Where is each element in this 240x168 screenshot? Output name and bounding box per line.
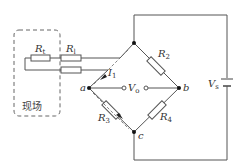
top-wire (134, 15, 227, 78)
resistor-rl-lower (61, 67, 81, 73)
vo-terminal-right (144, 86, 148, 90)
node-b (177, 86, 181, 90)
r4-label: R4 (159, 111, 173, 124)
node-a (87, 86, 91, 90)
node-a-label: a (80, 82, 86, 93)
field-label: 现场 (22, 100, 42, 112)
rl-label: Rl (65, 43, 77, 56)
node-b-label: b (183, 82, 189, 93)
bottom-wire (134, 88, 227, 160)
current-path-lower (93, 93, 129, 129)
bridge-circuit-diagram: 现场 Rt Rl R2 R4 R3 I1 Vo a b c Vs (0, 0, 240, 168)
node-c-label: c (138, 130, 144, 141)
rt-label: Rt (34, 43, 46, 56)
resistor-r2 (147, 57, 165, 75)
r2-label: R2 (157, 48, 170, 61)
vs-label: Vs (208, 78, 219, 91)
node-c (132, 130, 136, 134)
i1-label: I1 (107, 67, 116, 80)
vo-label: Vo (128, 82, 139, 95)
resistor-rt (31, 55, 50, 61)
node-top (132, 41, 136, 45)
resistor-rl-upper (61, 55, 81, 61)
r3-label: R3 (97, 112, 110, 125)
lead-upper-wire (81, 43, 134, 58)
vo-terminal-left (122, 86, 126, 90)
